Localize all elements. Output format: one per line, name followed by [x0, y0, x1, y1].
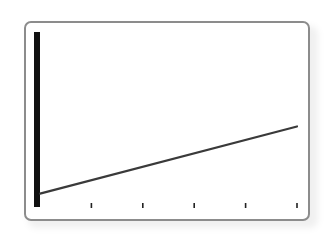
x-tick-mark	[193, 203, 195, 208]
y-axis-line	[34, 32, 40, 207]
x-axis-ticks	[91, 203, 298, 208]
x-tick-mark	[245, 203, 247, 208]
series-line	[40, 126, 297, 193]
data-series	[40, 126, 297, 193]
x-tick-mark	[91, 203, 93, 208]
x-tick-mark	[142, 203, 144, 208]
y-axis-bar	[34, 32, 40, 207]
x-tick-mark	[296, 203, 298, 208]
line-chart	[0, 0, 333, 237]
